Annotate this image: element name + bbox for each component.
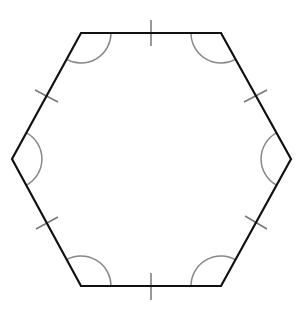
angle-arc-left [27, 133, 42, 185]
angle-arc-right [261, 133, 276, 185]
hexagon-diagram [0, 0, 302, 309]
hexagon-svg [0, 0, 302, 309]
hexagon-outline [12, 33, 291, 286]
angle-arcs [27, 33, 277, 286]
